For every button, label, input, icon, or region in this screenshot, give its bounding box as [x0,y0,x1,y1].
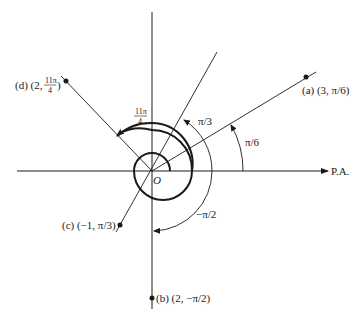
point-a [304,75,309,80]
svg-text:11π: 11π [45,76,57,85]
origin-label: O [153,174,161,186]
point-a-label: (a) (3, π/6) [302,84,350,97]
ray-pi-over-6 [152,72,316,171]
point-d [64,79,69,84]
point-c-label: (c) (−1, π/3) [62,219,116,232]
point-b [150,296,155,301]
point-b-label: (b) (2, −π/2) [156,292,211,305]
polar-diagram: P.A. (a) (3, π/6) (c) (−1, π/3) (d) (2, … [0,0,362,325]
point-d-label: (d) (2, 11π 4 ) [15,76,61,95]
angle-label-pi-over-3: π/3 [198,115,213,127]
angle-label-neg-pi-over-2: −π/2 [196,208,216,220]
svg-text:4: 4 [138,117,142,126]
point-c [118,223,123,228]
svg-text:4: 4 [48,86,52,95]
angle-label-pi-over-6: π/6 [245,136,260,148]
polar-axis-label: P.A. [331,165,350,177]
arc-neg-pi-over-2 [154,171,212,231]
arc-pi-over-6 [231,125,243,171]
spiral-middle [134,171,192,200]
svg-text:): ) [57,79,61,92]
svg-text:11π: 11π [135,107,147,116]
svg-text:(d) (2,: (d) (2, [15,79,43,92]
